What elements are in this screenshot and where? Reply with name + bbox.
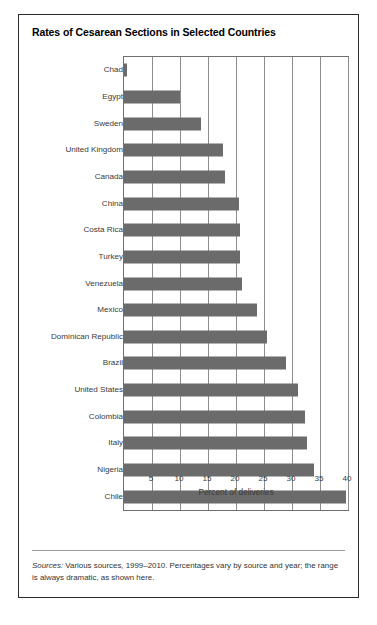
y-axis-tick-label: United States	[19, 385, 123, 394]
y-axis-tick-label: Brazil	[19, 358, 123, 367]
gridline	[320, 57, 321, 510]
plot-area	[123, 56, 349, 511]
bar	[124, 304, 257, 317]
x-axis-tick-label: 30	[286, 474, 295, 483]
bar	[124, 250, 240, 263]
y-axis-tick-label: Chile	[19, 491, 123, 500]
bar	[124, 437, 307, 450]
y-axis-tick-label: Canada	[19, 171, 123, 180]
bar	[124, 224, 240, 237]
source-note-lead: Sources:	[32, 561, 63, 570]
y-axis-tick-label: Chad	[19, 65, 123, 74]
y-axis-category-labels: ChadEgyptSwedenUnited KingdomCanadaChina…	[19, 56, 123, 511]
chart-title: Rates of Cesarean Sections in Selected C…	[32, 26, 276, 38]
chart-figure: Rates of Cesarean Sections in Selected C…	[18, 14, 359, 598]
y-axis-tick-label: Turkey	[19, 251, 123, 260]
x-axis-tick-label: 20	[230, 474, 239, 483]
y-axis-tick-label: Colombia	[19, 411, 123, 420]
plot-wrapper: ChadEgyptSwedenUnited KingdomCanadaChina…	[19, 56, 360, 526]
bar	[124, 197, 239, 210]
x-axis-tick-label: 25	[258, 474, 267, 483]
y-axis-tick-label: Egypt	[19, 91, 123, 100]
y-axis-tick-label: Costa Rica	[19, 225, 123, 234]
y-axis-tick-label: United Kingdom	[19, 145, 123, 154]
bar	[124, 144, 223, 157]
bar	[124, 90, 180, 103]
bar	[124, 117, 201, 130]
y-axis-tick-label: China	[19, 198, 123, 207]
x-axis-tick-label: 5	[149, 474, 154, 483]
y-axis-tick-label: Dominican Republic	[19, 331, 123, 340]
x-axis-tick-label: 40	[342, 474, 351, 483]
x-axis-label: Percent of deliveries	[123, 487, 349, 497]
x-axis-tick-label: 35	[314, 474, 323, 483]
bar	[124, 64, 127, 77]
x-axis-ticks: 510152025303540	[123, 471, 349, 487]
bar	[124, 410, 305, 423]
bar	[124, 170, 225, 183]
x-axis-tick-label: 10	[174, 474, 183, 483]
bar	[124, 384, 298, 397]
footer-divider	[32, 550, 345, 551]
y-axis-tick-label: Italy	[19, 438, 123, 447]
bar	[124, 277, 242, 290]
source-note-text: Various sources, 1999–2010. Percentages …	[32, 561, 338, 582]
y-axis-tick-label: Sweden	[19, 118, 123, 127]
y-axis-tick-label: Venezuela	[19, 278, 123, 287]
gridline	[348, 57, 349, 510]
source-note: Sources: Various sources, 1999–2010. Per…	[32, 560, 340, 584]
y-axis-tick-label: Mexico	[19, 305, 123, 314]
y-axis-tick-label: Nigeria	[19, 465, 123, 474]
x-axis-tick-label: 15	[202, 474, 211, 483]
bar	[124, 330, 267, 343]
bar	[124, 357, 286, 370]
